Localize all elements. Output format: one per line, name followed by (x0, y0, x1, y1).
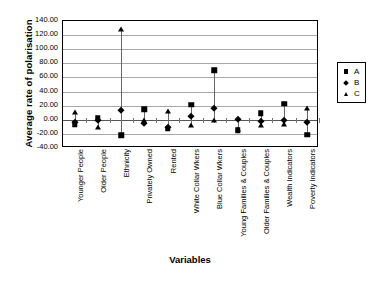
category-range-stem (121, 29, 122, 135)
x-axis-tick-mark (249, 118, 250, 123)
gridline (63, 77, 317, 78)
data-point-series-C (258, 123, 264, 128)
x-axis-category-label: Wealth Indicators (286, 149, 294, 207)
gridline (63, 63, 317, 64)
data-point-series-A (305, 132, 311, 138)
data-point-series-A (142, 106, 148, 112)
data-point-series-C (281, 122, 287, 127)
x-axis-tick-mark (179, 118, 180, 123)
legend-item-label: C (354, 90, 360, 98)
x-axis-category-label: Older People (100, 149, 108, 193)
data-point-series-C (304, 105, 310, 110)
y-axis-tick-labels: 140.00120.00100.0080.0060.0040.0020.000.… (10, 20, 58, 147)
legend-item-c[interactable]: C (341, 88, 360, 99)
data-point-series-A (188, 102, 194, 108)
gridline (63, 92, 317, 93)
y-axis-tick-label: -40.00 (10, 143, 58, 151)
triangle-marker-icon (341, 92, 351, 96)
legend-item-a[interactable]: A (341, 66, 360, 77)
x-axis-tick-mark (156, 118, 157, 123)
y-axis-tick-label: 120.00 (10, 30, 58, 38)
y-axis-tick-label: 140.00 (10, 16, 58, 24)
y-axis-tick-label: -20.00 (10, 129, 58, 137)
x-axis-tick-mark (133, 118, 134, 123)
y-axis-tick-label: 0.00 (10, 115, 58, 123)
x-axis-category-label: Blue Collar Wkers (216, 149, 224, 209)
x-axis-tick-mark (319, 118, 320, 123)
plot-area (62, 20, 318, 147)
x-axis-tick-mark (272, 118, 273, 123)
data-point-series-A (118, 133, 124, 139)
chart-legend: ABC (337, 62, 366, 103)
square-marker-icon (341, 69, 351, 74)
data-point-series-B (118, 107, 124, 113)
y-axis-tick-label: 80.00 (10, 59, 58, 67)
legend-item-label: B (354, 79, 359, 87)
data-point-series-C (165, 109, 171, 114)
data-point-series-B (188, 112, 194, 118)
x-axis-tick-mark (110, 118, 111, 123)
data-point-series-A (258, 110, 264, 116)
x-axis-category-label: Ethnicity (123, 149, 131, 177)
x-axis-category-label: Rented (170, 149, 178, 173)
x-axis-title: Variables (62, 254, 318, 265)
diamond-marker-icon (341, 81, 351, 85)
x-axis-category-label: White Collar Wkers (193, 149, 201, 213)
data-point-series-A (212, 68, 218, 74)
legend-item-label: A (354, 68, 359, 76)
category-range-stem (214, 70, 215, 120)
data-point-series-A (281, 101, 287, 107)
x-axis-category-label: Older Families & Couples (263, 149, 271, 234)
gridline (63, 49, 317, 50)
x-axis-category-label: Young Families & Couples (240, 149, 248, 237)
y-axis-tick-label: 40.00 (10, 87, 58, 95)
data-point-series-B (234, 116, 240, 122)
y-axis-tick-label: 20.00 (10, 101, 58, 109)
gridline (63, 134, 317, 135)
y-axis-tick-label: 60.00 (10, 73, 58, 81)
polarisation-scatter-chart: Average rate of polarisation 140.00120.0… (0, 0, 386, 283)
x-axis-tick-mark (86, 118, 87, 123)
x-axis-category-label: Poverty Indicators (309, 149, 317, 209)
data-point-series-C (188, 123, 194, 128)
y-axis-tick-label: 100.00 (10, 44, 58, 52)
data-point-series-C (141, 118, 147, 123)
legend-item-b[interactable]: B (341, 77, 360, 88)
gridline (63, 35, 317, 36)
x-axis-tick-mark (226, 118, 227, 123)
data-point-series-C (211, 118, 217, 123)
x-axis-category-label: Younger People (77, 149, 85, 202)
data-point-series-C (72, 110, 78, 115)
x-axis-tick-mark (296, 118, 297, 123)
data-point-series-B (95, 117, 101, 123)
data-point-series-C (95, 124, 101, 129)
x-axis-category-label: Privately Owned (146, 149, 154, 204)
x-axis-tick-mark (203, 118, 204, 123)
data-point-series-C (118, 27, 124, 32)
x-axis-tick-labels: Younger PeopleOlder PeopleEthnicityPriva… (62, 149, 318, 247)
data-point-series-C (235, 126, 241, 131)
